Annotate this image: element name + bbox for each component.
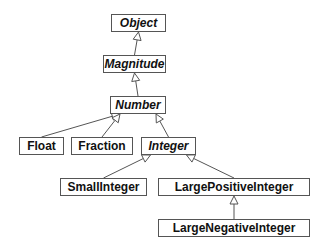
class-integer: Integer xyxy=(141,137,196,155)
class-largenegativeinteger: LargeNegativeInteger xyxy=(158,219,310,237)
class-float: Float xyxy=(19,137,64,155)
class-object: Object xyxy=(111,14,166,32)
class-smallinteger: SmallInteger xyxy=(60,178,147,196)
class-magnitude: Magnitude xyxy=(103,55,166,73)
class-fraction: Fraction xyxy=(71,137,133,155)
class-largepositiveinteger: LargePositiveInteger xyxy=(158,178,310,196)
class-number: Number xyxy=(110,96,166,114)
inheritance-edges xyxy=(0,0,327,252)
